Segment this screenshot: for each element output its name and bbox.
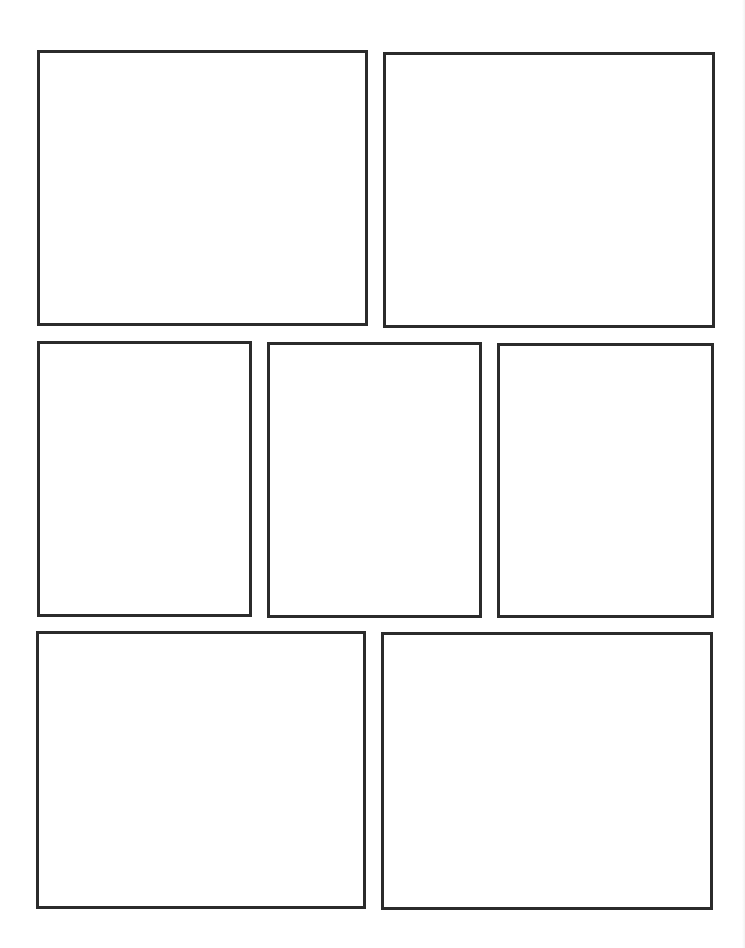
comic-panel bbox=[37, 341, 252, 617]
comic-panel bbox=[36, 631, 366, 909]
comic-panel bbox=[37, 50, 368, 326]
comic-panel bbox=[383, 52, 715, 328]
comic-page bbox=[0, 0, 745, 948]
comic-panel bbox=[381, 632, 713, 910]
comic-panel bbox=[497, 343, 714, 618]
comic-panel bbox=[267, 342, 482, 618]
